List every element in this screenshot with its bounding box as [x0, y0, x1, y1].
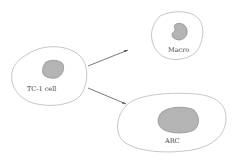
arc-nucleus	[158, 107, 198, 133]
macro-label: Macro	[168, 46, 189, 54]
tc1-label: TC-1 cell	[27, 85, 56, 93]
arrow-tc1-to-macro	[88, 50, 128, 66]
arc-cell: ARC	[118, 93, 226, 152]
cell-lineage-diagram: TC-1 cell Macro ARC	[0, 0, 232, 162]
macro-cell: Macro	[151, 12, 202, 60]
diagram-canvas: TC-1 cell Macro ARC	[0, 0, 232, 162]
macro-nucleus	[172, 23, 187, 40]
tc1-cell: TC-1 cell	[12, 47, 87, 106]
arrow-tc1-to-arc	[88, 88, 126, 104]
arc-label: ARC	[164, 137, 180, 145]
tc1-nucleus	[43, 60, 64, 78]
